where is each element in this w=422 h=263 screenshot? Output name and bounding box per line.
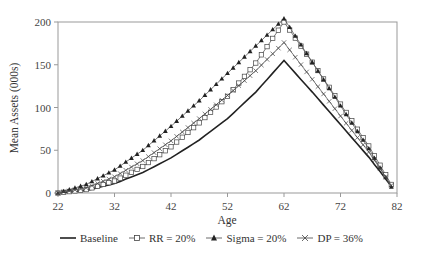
series-rr xyxy=(56,20,394,195)
legend-label: DP = 36% xyxy=(317,232,363,244)
legend-label: Baseline xyxy=(80,232,118,244)
plot-area xyxy=(58,22,397,193)
legend-item-rr: RR = 20% xyxy=(128,232,196,244)
y-axis-title: Mean Assets (000s) xyxy=(8,62,21,153)
y-tick-label: 100 xyxy=(35,102,52,114)
x-tick-label: 22 xyxy=(53,200,64,212)
y-tick-label: 200 xyxy=(35,16,52,28)
chart-legend: Baseline RR = 20% Sigma = 20% DP = 36% xyxy=(0,232,422,244)
x-tick-label: 42 xyxy=(166,200,177,212)
open-square-marker-icon xyxy=(128,233,146,243)
legend-item-baseline: Baseline xyxy=(59,232,118,244)
x-tick-label: 32 xyxy=(109,200,120,212)
x-axis-title: Age xyxy=(217,214,236,227)
legend-label: RR = 20% xyxy=(149,232,196,244)
x-tick-label: 62 xyxy=(279,200,290,212)
x-axis-ticks: 22324252627282 xyxy=(53,193,403,212)
filled-triangle-marker-icon xyxy=(205,233,223,243)
legend-item-dp: DP = 36% xyxy=(296,232,363,244)
x-tick-label: 82 xyxy=(392,200,403,212)
y-tick-label: 150 xyxy=(35,59,52,71)
legend-label: Sigma = 20% xyxy=(226,232,286,244)
series-dp xyxy=(56,40,394,195)
series-layer xyxy=(56,16,394,195)
line-chart: 050100150200 22324252627282 Age Mean Ass… xyxy=(0,0,422,263)
line-marker-icon xyxy=(59,233,77,243)
legend-item-sigma: Sigma = 20% xyxy=(205,232,286,244)
y-axis-ticks: 050100150200 xyxy=(35,16,59,199)
x-tick-label: 72 xyxy=(335,200,346,212)
y-tick-label: 50 xyxy=(40,144,52,156)
cross-marker-icon xyxy=(296,233,314,243)
x-tick-label: 52 xyxy=(222,200,233,212)
y-tick-label: 0 xyxy=(46,187,52,199)
